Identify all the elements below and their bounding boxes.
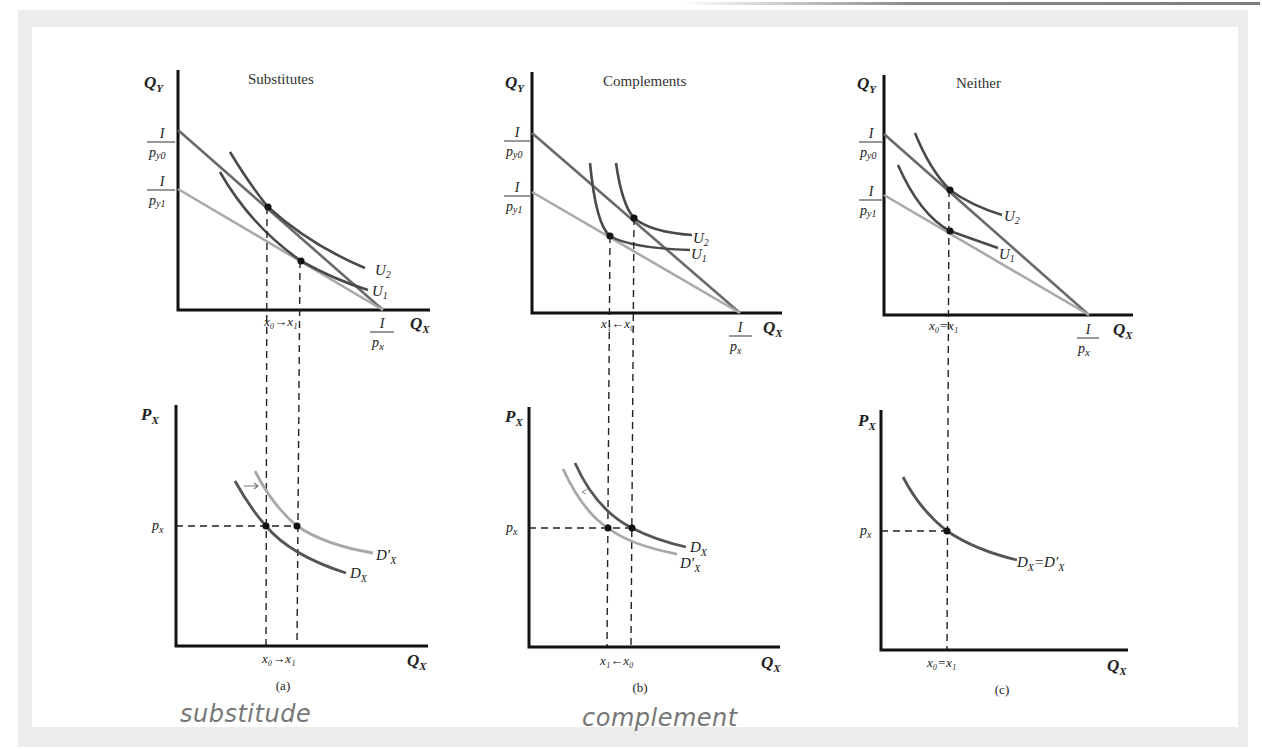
svg-text:I: I (868, 184, 875, 199)
svg-text:px: px (371, 335, 384, 352)
x-tick-label: x₁←x₀ (599, 653, 634, 668)
x-axis-label: QX (407, 651, 427, 672)
dashed-guide-x0 (266, 207, 267, 646)
handwritten-note-complement: complement (582, 704, 739, 732)
indifference-curve-u1 (590, 163, 690, 250)
demand-point (944, 528, 951, 535)
svg-text:I: I (379, 316, 386, 331)
x-tick-label: x₀=x₁ (928, 318, 958, 333)
axes (881, 410, 1128, 650)
budget-line-original (532, 133, 740, 313)
figure-svg: Substitutes QY I py0 I py1 U2 U1 x₀→x₁ (0, 0, 1262, 749)
indifference-curve-u2 (230, 152, 365, 268)
budget-line-original (178, 130, 383, 310)
d-label: DX (349, 565, 368, 584)
intercept-x-label: I px (370, 316, 394, 352)
svg-text:I: I (737, 320, 744, 335)
panel-c-demand-chart: PX px DX=D′X x₀=x₁ QX (c) (857, 410, 1128, 697)
x-axis-label: QX (1113, 320, 1133, 341)
budget-line-original (884, 134, 1089, 315)
svg-text:I: I (868, 126, 875, 141)
axes (178, 70, 430, 310)
demand-curve (903, 477, 1017, 560)
intercept-x-label: I px (1077, 322, 1099, 358)
demand-point-1 (605, 525, 612, 532)
equilibrium-point-1 (298, 258, 305, 265)
intercept-y0-label: I py0 (504, 125, 530, 160)
y-axis-label: PX (140, 405, 159, 426)
svg-text:px: px (1077, 341, 1090, 358)
axes (532, 72, 782, 313)
x-tick-label: x₁←x₀ (600, 316, 635, 331)
equilibrium-point-0 (947, 187, 954, 194)
price-label: px (859, 523, 872, 540)
equilibrium-point-0 (265, 204, 272, 211)
intercept-y1-label: I py1 (147, 174, 175, 209)
svg-text:I: I (159, 126, 166, 141)
x-tick-label: x₀→x₁ (261, 651, 296, 666)
svg-text:I: I (1085, 322, 1092, 337)
budget-line-new (532, 192, 740, 313)
d-equals-dprime-label: DX=D′X (1016, 554, 1065, 573)
dashed-guide-x1 (607, 236, 610, 647)
svg-text:I: I (159, 174, 166, 189)
panel-title: Neither (956, 75, 1001, 91)
indifference-curve-u2 (616, 163, 692, 235)
panel-title: Complements (603, 73, 686, 89)
demand-point-0 (629, 525, 636, 532)
price-label: px (505, 520, 518, 537)
x-axis-label: QX (763, 318, 783, 339)
intercept-x-label: I px (729, 320, 752, 356)
svg-text:py0: py0 (148, 145, 165, 161)
svg-text:py1: py1 (505, 199, 522, 215)
intercept-y1-label: I py1 (504, 180, 530, 215)
y-axis-label: QY (857, 74, 877, 95)
panel-a-demand-chart: PX px D′X DX x₀→x₁ QX (a) (140, 405, 428, 693)
dashed-guide-x0 (631, 218, 634, 647)
handwritten-note-substitute: substitude (180, 700, 311, 728)
axes (884, 75, 1133, 315)
intercept-y0-label: I py0 (147, 126, 175, 161)
dashed-guide-x0-x1 (947, 190, 949, 650)
indifference-curve-u1 (898, 165, 998, 248)
panel-b-demand-chart: PX px DX D′X x₁←x₀ QX (b) (504, 407, 781, 695)
budget-line-new (178, 189, 383, 310)
shift-left-arrow-icon (582, 489, 587, 494)
svg-text:I: I (514, 180, 521, 195)
intercept-y0-label: I py0 (859, 126, 882, 161)
x-axis-label: QX (1107, 656, 1127, 677)
y-axis-label: QY (144, 73, 164, 94)
svg-text:py0: py0 (505, 144, 522, 160)
axes (529, 407, 780, 647)
svg-text:py1: py1 (859, 203, 876, 219)
panel-b-indifference-chart: Complements QY I py0 I py1 U2 U1 x₁←x₀ (504, 72, 783, 356)
u1-label: U1 (691, 246, 707, 264)
y-axis-label: PX (857, 411, 876, 432)
panel-a-indifference-chart: Substitutes QY I py0 I py1 U2 U1 x₀→x₁ (144, 70, 430, 352)
equilibrium-point-1 (947, 228, 954, 235)
budget-line-new (884, 195, 1089, 315)
price-label: px (151, 518, 164, 535)
svg-text:py1: py1 (148, 193, 165, 209)
svg-text:py0: py0 (859, 145, 876, 161)
demand-curve-shifted (563, 469, 677, 554)
dprime-label: D′X (679, 555, 701, 574)
panel-b: Complements QY I py0 I py1 U2 U1 x₁←x₀ (504, 72, 783, 695)
u2-label: U2 (1004, 208, 1020, 226)
panel-caption: (c) (995, 682, 1009, 697)
x-tick-label: x₀→x₁ (263, 314, 298, 329)
u1-label: U1 (372, 283, 388, 301)
demand-point-0 (263, 523, 270, 530)
y-axis-label: QY (505, 73, 525, 94)
shift-right-arrow-icon (244, 483, 258, 489)
x-tick-label: x₀=x₁ (926, 655, 956, 670)
intercept-y1-label: I py1 (859, 184, 882, 219)
u2-label: U2 (375, 262, 391, 280)
panel-caption: (b) (632, 680, 647, 695)
panel-c-indifference-chart: Neither QY I py0 I py1 U2 U1 x₀=x₁ (857, 74, 1133, 358)
demand-point-1 (294, 523, 301, 530)
svg-text:I: I (514, 125, 521, 140)
panel-title: Substitutes (248, 71, 314, 87)
demand-curve-original (235, 481, 346, 573)
x-axis-label: QX (761, 653, 781, 674)
